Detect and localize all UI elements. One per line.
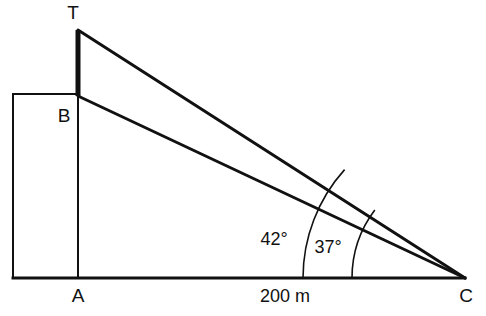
point-label-C: C (459, 285, 473, 306)
dimension-label-ground-distance: 200 m (260, 286, 310, 306)
point-label-B: B (58, 105, 71, 126)
angle-label-37: 37° (314, 237, 341, 257)
angle-arc-37 (352, 210, 375, 278)
diagram-canvas: T B A C 42° 37° 200 m (0, 0, 486, 316)
line-of-sight-base (78, 96, 465, 278)
angle-label-42: 42° (260, 229, 287, 249)
point-label-A: A (72, 285, 85, 306)
geometry-diagram: T B A C 42° 37° 200 m (0, 0, 486, 316)
point-label-T: T (67, 2, 79, 23)
